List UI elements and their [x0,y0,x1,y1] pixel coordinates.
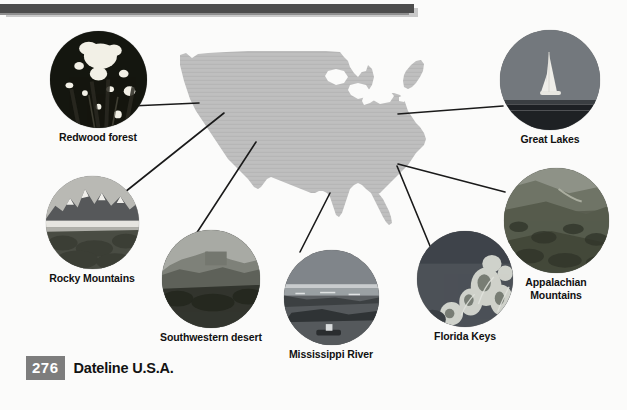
page-title: Dateline U.S.A. [74,360,174,376]
callout-florida-keys[interactable]: Florida Keys [392,231,538,343]
caption-mississippi-river: Mississippi River [255,348,407,361]
photo-redwood-forest[interactable] [50,31,147,128]
photo-florida-keys[interactable] [417,231,513,327]
callout-redwood-forest[interactable]: Redwood forest [40,31,156,144]
photo-great-lakes[interactable] [500,30,600,130]
caption-great-lakes: Great Lakes [490,133,610,146]
textbook-page: Redwood forest Great Lakes [0,0,627,410]
photo-rocky-mountains[interactable] [46,176,139,269]
caption-florida-keys: Florida Keys [392,330,538,343]
callout-great-lakes[interactable]: Great Lakes [490,30,610,146]
photo-southwestern-desert[interactable] [162,230,260,328]
page-number: 276 [26,356,65,380]
callout-mississippi-river[interactable]: Mississippi River [255,250,407,361]
caption-redwood-forest: Redwood forest [40,131,156,144]
photo-mississippi-river[interactable] [284,250,379,345]
page-footer: 276 Dateline U.S.A. [26,356,174,380]
